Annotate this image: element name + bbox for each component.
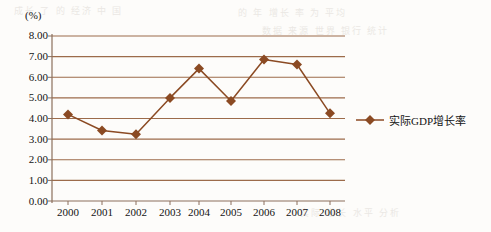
data-point-2001 bbox=[97, 126, 107, 136]
x-tick-label-2001: 2001 bbox=[85, 206, 119, 218]
x-tick-label-2005: 2005 bbox=[214, 206, 248, 218]
series-markers bbox=[63, 55, 335, 140]
chart-page: 成长 了 的 经济 中 国 的 年 增长 率 为 平均 数据 来源 世界 银行 … bbox=[0, 0, 491, 232]
x-tick-label-2002: 2002 bbox=[119, 206, 153, 218]
x-tick-label-2006: 2006 bbox=[247, 206, 281, 218]
legend-label-real-gdp-growth: 实际GDP增长率 bbox=[389, 112, 466, 128]
x-tick-label-2000: 2000 bbox=[51, 206, 85, 218]
x-axis-ticks bbox=[68, 201, 330, 205]
chart-legend: 实际GDP增长率 bbox=[356, 112, 466, 128]
gridlines bbox=[52, 36, 345, 180]
x-tick-label-2004: 2004 bbox=[182, 206, 216, 218]
legend-marker-icon bbox=[356, 114, 384, 126]
data-point-2007 bbox=[292, 60, 302, 70]
data-point-2008 bbox=[325, 108, 335, 118]
x-tick-label-2007: 2007 bbox=[280, 206, 314, 218]
line-chart: (%) 8.00 7.00 6.00 5.00 4.00 3.00 2.00 1… bbox=[0, 0, 491, 232]
x-tick-label-2008: 2008 bbox=[313, 206, 347, 218]
data-point-2000 bbox=[63, 109, 73, 119]
